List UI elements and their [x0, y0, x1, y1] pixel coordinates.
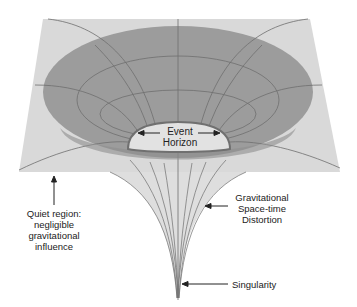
quiet-region-label-line2: negligible: [18, 219, 90, 230]
event-horizon-label-line1: Event: [145, 126, 215, 137]
arrow-left-icon: [205, 204, 211, 209]
distortion-label: Gravitational Space-time Distortion: [222, 192, 302, 225]
black-hole-diagram: [0, 0, 357, 307]
quiet-region-label-line4: influence: [18, 241, 90, 252]
quiet-region-label: Quiet region: negligible gravitational i…: [18, 208, 90, 252]
event-horizon-label: Event Horizon: [145, 126, 215, 148]
arrow-left-icon: [182, 282, 188, 287]
quiet-region-label-line3: gravitational: [18, 230, 90, 241]
arrow-up-icon: [52, 176, 57, 182]
singularity-label-text: Singularity: [232, 279, 292, 290]
singularity-label: Singularity: [232, 279, 292, 290]
distortion-label-line3: Distortion: [222, 214, 302, 225]
quiet-region-label-line1: Quiet region:: [18, 208, 90, 219]
distortion-label-line1: Gravitational: [222, 192, 302, 203]
event-horizon-label-line2: Horizon: [145, 137, 215, 148]
distortion-label-line2: Space-time: [222, 203, 302, 214]
